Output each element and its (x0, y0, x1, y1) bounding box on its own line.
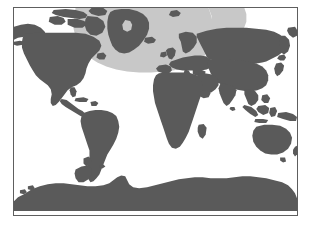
world-map-svg (14, 8, 297, 215)
world-map-figure (0, 0, 316, 230)
map-frame (13, 7, 298, 216)
landmass-northern-asia (197, 28, 286, 64)
landmass-java (254, 119, 268, 123)
